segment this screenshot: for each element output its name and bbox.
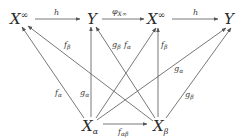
label-fb-left: fβ xyxy=(63,40,71,51)
label-gb-left: gβ xyxy=(112,40,121,51)
label-fa-right: fα xyxy=(123,40,131,50)
label-fab: fαβ xyxy=(117,127,129,138)
label-fa-left: fα xyxy=(54,88,62,98)
label-ga-left: gα xyxy=(80,88,89,98)
arrow-fb-left xyxy=(28,26,153,121)
label-fb-right: fβ xyxy=(160,40,168,51)
label-phi: φX∞ xyxy=(112,7,127,17)
node-y-right: Y xyxy=(224,10,236,28)
label-gb-right: gβ xyxy=(185,90,194,101)
node-x-beta: Xβ xyxy=(152,117,169,136)
arrow-gb-right xyxy=(166,28,231,118)
node-x-infinity-right: X∞ xyxy=(146,10,165,28)
label-h-1: h xyxy=(54,8,59,17)
node-x-alpha: Xα xyxy=(81,117,99,136)
commutative-diagram: X∞ Y X∞ Y Xα Xβ h φX∞ h fβ gβ fα fβ gα f… xyxy=(0,0,248,138)
node-y-left: Y xyxy=(87,10,99,28)
arrow-fa-left xyxy=(22,27,84,118)
label-h-2: h xyxy=(193,8,198,17)
label-ga-right: gα xyxy=(174,64,183,74)
node-x-infinity-left: X∞ xyxy=(9,10,28,28)
